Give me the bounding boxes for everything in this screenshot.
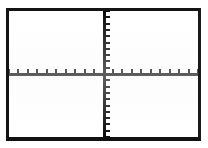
y-axis-tick <box>106 79 110 81</box>
x-axis-tick <box>178 69 180 73</box>
y-axis-tick <box>106 136 110 137</box>
y-axis-tick <box>106 123 110 125</box>
y-axis-tick <box>106 60 110 62</box>
y-axis-tick <box>106 105 110 107</box>
y-axis-tick <box>106 11 110 12</box>
y-axis-tick <box>106 117 110 119</box>
y-axis-tick <box>106 92 110 94</box>
y-axis-tick <box>106 111 110 113</box>
x-axis-tick <box>188 69 190 73</box>
x-axis-tick <box>84 69 86 73</box>
plot-area[interactable] <box>9 11 198 137</box>
x-axis-tick <box>46 69 48 73</box>
x-axis-tick <box>17 69 19 73</box>
x-axis-tick <box>197 69 198 73</box>
x-axis-tick <box>150 69 152 73</box>
x-axis-tick <box>65 69 67 73</box>
x-axis-tick <box>55 69 57 73</box>
x-axis-tick <box>27 69 29 73</box>
y-axis-tick <box>106 35 110 37</box>
x-axis-tick <box>169 69 171 73</box>
x-axis-tick <box>36 69 38 73</box>
y-axis-tick <box>106 48 110 50</box>
y-axis-tick <box>106 130 110 132</box>
x-axis-tick <box>121 69 123 73</box>
x-axis-tick <box>159 69 161 73</box>
y-axis-tick <box>106 86 110 88</box>
x-axis-tick <box>74 69 76 73</box>
y-axis-tick <box>106 42 110 44</box>
y-axis-tick <box>106 16 110 18</box>
calculator-graph-screen <box>0 0 208 148</box>
x-axis-tick <box>112 69 114 73</box>
y-axis-tick <box>106 98 110 100</box>
screen-frame <box>6 8 201 141</box>
y-axis-tick <box>106 29 110 31</box>
y-axis-tick <box>106 23 110 25</box>
x-axis-tick <box>140 69 142 73</box>
x-axis-tick <box>9 69 10 73</box>
y-axis-tick <box>106 54 110 56</box>
x-axis-tick <box>93 69 95 73</box>
x-axis-tick <box>131 69 133 73</box>
y-axis-tick <box>106 67 110 69</box>
